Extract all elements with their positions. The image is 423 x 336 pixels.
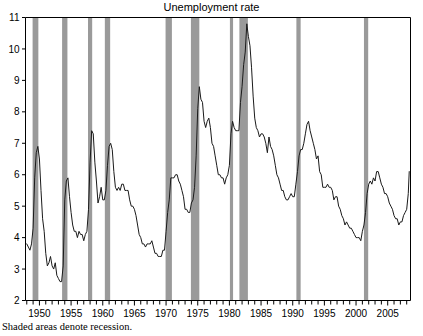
x-axis-tick-label: 1960	[92, 308, 115, 319]
recession-band	[364, 18, 368, 301]
x-axis-tick-label: 1955	[60, 308, 83, 319]
unemployment-rate-line	[27, 24, 409, 282]
y-axis-tick-label: 9	[14, 75, 20, 86]
x-axis-tick-label: 2005	[377, 308, 400, 319]
y-axis-tick-label: 4	[14, 232, 20, 243]
x-axis-tick-label: 1975	[187, 308, 210, 319]
x-axis-tick-label: 1970	[155, 308, 178, 319]
y-axis-tick-label: 6	[14, 169, 20, 180]
y-tick-group: 234567891011	[8, 12, 25, 306]
recession-band	[191, 18, 199, 301]
x-tick-group: 1950195519601965197019751980198519901995…	[27, 301, 407, 319]
x-axis-tick-label: 1980	[218, 308, 241, 319]
recession-band	[239, 18, 247, 301]
y-axis-tick-label: 8	[14, 106, 20, 117]
y-axis-tick-label: 3	[14, 264, 20, 275]
y-axis-tick-label: 5	[14, 201, 20, 212]
recession-band	[230, 18, 233, 301]
y-axis-tick-label: 7	[14, 138, 20, 149]
x-axis-tick-label: 1985	[250, 308, 273, 319]
plot-frame	[26, 18, 411, 301]
x-axis-tick-label: 1965	[123, 308, 146, 319]
y-axis-tick-label: 11	[9, 12, 20, 23]
x-axis-tick-label: 1950	[28, 308, 51, 319]
y-axis-tick-label: 10	[8, 44, 20, 55]
chart-figure: Unemployment rate 234567891011 195019551…	[0, 0, 423, 336]
recession-band	[166, 18, 172, 301]
x-axis-tick-label: 1995	[313, 308, 336, 319]
data-series-group	[27, 24, 409, 282]
unemployment-rate-chart: 234567891011 195019551960196519701975198…	[0, 0, 423, 336]
axis-group	[26, 18, 411, 301]
recession-band-group	[33, 18, 369, 301]
recession-band	[105, 18, 110, 301]
x-axis-tick-label: 1990	[282, 308, 305, 319]
chart-caption: Shaded areas denote recession.	[2, 321, 132, 332]
x-axis-tick-label: 2000	[345, 308, 368, 319]
y-axis-tick-label: 2	[14, 295, 20, 306]
